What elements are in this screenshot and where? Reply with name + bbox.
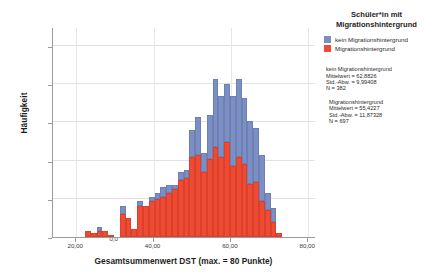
y-axis-label: Häufigkeit [19,53,29,173]
y-tick-mark [48,238,52,239]
bar-segment-kein-migrationshintergrund [271,208,277,221]
legend-title-line1: Schüler*in mit [351,10,402,19]
histogram-bars [53,28,315,237]
legend-title: Schüler*in mit Migrationshintergrund [320,10,433,30]
legend-title-line2: Migrationshintergrund [336,20,417,29]
x-tick-mark [75,238,76,242]
plot-area [52,28,315,238]
chart-root: Häufigkeit 0,020,040,060,080,0100,0 20,0… [0,0,437,277]
x-tick-label: 60,00 [208,242,252,249]
x-axis-label: Gesamtsummenwert DST (max. = 80 Punkte) [52,256,315,266]
legend-swatch-blue-icon [324,36,331,43]
legend-item-kein-migrationshintergrund[interactable]: kein Migrationshintergrund [324,36,433,43]
stats-block-kein-migrationshintergrund: kein Migrationshintergrund Mittelwert = … [326,66,433,92]
x-tick-mark [153,238,154,242]
legend-swatch-red-icon [324,45,331,52]
stats-n-1: N = 382 [326,85,433,91]
histogram-bar [108,235,114,237]
x-tick-mark [307,238,308,242]
stats-group-name-2: Migrationshintergrund [329,99,433,106]
legend-item-migrationshintergrund[interactable]: Migrationshintergrund [324,45,433,52]
bar-segment-kein-migrationshintergrund [120,206,126,214]
stats-group-name-1: kein Migrationshintergrund [326,66,433,73]
stats-block-migrationshintergrund: Migrationshintergrund Mittelwert = 55,42… [329,99,433,125]
stats-n-2: N = 697 [329,118,433,124]
bar-segment-migrationshintergrund [108,235,114,237]
x-tick-label: 80,00 [285,242,329,249]
bar-segment-migrationshintergrund [276,233,282,237]
x-tick-label: 40,00 [131,242,175,249]
x-tick-label: 20,00 [53,242,97,249]
legend-label-blue: kein Migrationshintergrund [335,36,408,43]
bar-segment-kein-migrationshintergrund [195,117,201,155]
legend-panel: Schüler*in mit Migrationshintergrund kei… [320,10,433,125]
histogram-bar [276,233,282,237]
x-tick-mark [230,238,231,242]
legend-label-red: Migrationshintergrund [335,45,395,52]
